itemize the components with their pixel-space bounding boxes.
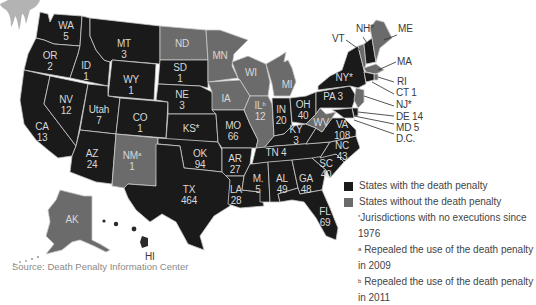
label-WA: WA5 <box>58 20 73 42</box>
label-MD: MD 5 <box>396 122 419 133</box>
label-LA: LA28 <box>230 184 242 206</box>
label-MS: M.5 <box>253 173 264 195</box>
label-ND: ND <box>175 38 189 49</box>
state-NY[interactable] <box>318 46 366 90</box>
label-PA: PA 3 <box>323 91 343 102</box>
label-OR: OR2 <box>43 50 58 72</box>
label-KY: KY3 <box>290 124 303 146</box>
label-SC: SC40 <box>319 158 333 180</box>
label-VA: VA108 <box>334 119 350 141</box>
state-CT[interactable] <box>364 72 374 82</box>
label-OH: OH40 <box>296 99 311 121</box>
source-credit: Source: Death Penalty Information Center <box>12 261 188 272</box>
label-NV: NV12 <box>59 94 73 116</box>
label-CA: CA13 <box>35 121 49 143</box>
label-DE: DE 14 <box>396 111 423 122</box>
label-CT: CT 1 <box>396 87 417 98</box>
label-WY: WY1 <box>123 74 139 96</box>
legend-item-without: States without the death penalty <box>344 194 536 210</box>
label-WI: WI <box>245 67 257 78</box>
label-NY: NY* <box>335 72 352 83</box>
label-TX: TX464 <box>181 184 197 206</box>
label-UT: Utah7 <box>89 104 109 126</box>
legend-note-a: a Repealed the use of the death penalty … <box>344 242 536 274</box>
legend-label-without: States without the death penalty <box>359 194 501 210</box>
label-WV: WV <box>313 117 329 128</box>
state-HI[interactable] <box>102 219 148 248</box>
label-OK: OK94 <box>193 148 207 170</box>
label-AZ: AZ24 <box>86 148 98 170</box>
label-ME: ME <box>398 23 413 34</box>
label-KS: KS* <box>183 123 200 134</box>
label-DC: D.C. <box>396 133 415 144</box>
label-NJ: NJ* <box>396 99 412 110</box>
label-IN: IN20 <box>276 104 287 126</box>
label-GA: GA48 <box>299 173 313 195</box>
label-NC: NC43 <box>335 140 349 162</box>
legend-note-b: b Repealed the use of the death penalty … <box>344 274 536 305</box>
label-AL: AL49 <box>276 173 288 195</box>
label-IA: IA <box>221 93 230 104</box>
label-NE: NE3 <box>175 89 189 111</box>
label-MA: MA <box>397 56 412 67</box>
state-NJ[interactable] <box>354 88 364 108</box>
label-AR: AR27 <box>228 153 242 175</box>
legend-label-with: States with the death penalty <box>359 178 487 194</box>
label-CO: CO1 <box>133 112 148 134</box>
label-MT: MT3 <box>117 38 131 60</box>
label-MN: MN <box>212 50 227 61</box>
legend-note-star: *Jurisdictions with no executions since … <box>344 210 536 242</box>
label-MO: MO66 <box>225 120 241 142</box>
label-TN: TN 4 <box>266 147 287 158</box>
label-NH: NH* <box>356 23 374 34</box>
label-FL: FL69 <box>319 206 330 228</box>
label-RI: RI <box>397 76 407 87</box>
legend: States with the death penalty States wit… <box>344 178 536 305</box>
label-SD: SD1 <box>173 62 187 84</box>
label-VT: VT <box>332 33 344 44</box>
state-RI[interactable] <box>374 74 378 80</box>
swatch-without <box>344 198 353 207</box>
label-NM: NMa1 <box>123 150 141 172</box>
label-MI: MI <box>282 79 293 90</box>
label-IL: ILb12 <box>254 100 265 122</box>
swatch-with <box>344 182 353 191</box>
label-AK: AK <box>66 214 79 225</box>
label-ID: ID1 <box>81 60 91 82</box>
legend-item-with: States with the death penalty <box>344 178 536 194</box>
